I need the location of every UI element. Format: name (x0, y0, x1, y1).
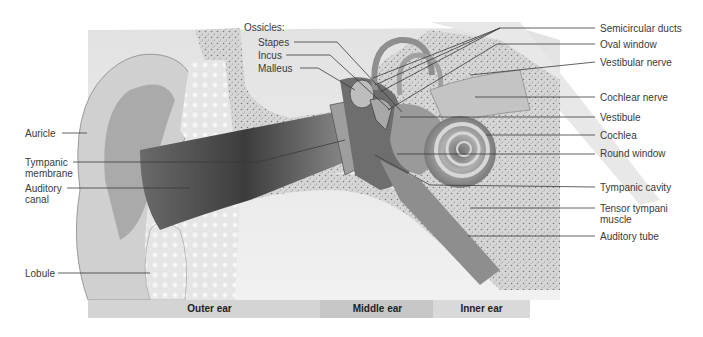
label-auricle: Auricle (25, 128, 56, 139)
ear-anatomy-illustration (0, 0, 703, 337)
lobule-shape (145, 223, 187, 301)
region-label-middle-ear: Middle ear (320, 300, 435, 318)
label-lobule: Lobule (25, 268, 55, 279)
label-cochlea: Cochlea (600, 130, 637, 141)
label-stapes: Stapes (258, 37, 289, 48)
label-oval-window: Oval window (600, 39, 657, 50)
label-ossicles-heading: Ossicles: (244, 22, 285, 33)
label-vestibule: Vestibule (600, 112, 641, 123)
label-round-window: Round window (600, 148, 666, 159)
label-malleus: Malleus (258, 63, 292, 74)
label-tensor-tympani-line1: Tensor tympani (600, 203, 668, 214)
label-tensor-tympani-line2: muscle (600, 214, 632, 225)
label-incus: Incus (258, 50, 282, 61)
label-tympanic-cavity: Tympanic cavity (600, 182, 671, 193)
region-label-outer-ear: Outer ear (88, 300, 331, 318)
label-auditory-canal-line1: Auditory (25, 183, 62, 194)
label-auditory-canal-line2: canal (25, 194, 49, 205)
label-cochlear-nerve: Cochlear nerve (600, 92, 668, 103)
label-auditory-tube: Auditory tube (600, 231, 659, 242)
label-semicircular-ducts: Semicircular ducts (600, 23, 682, 34)
label-tympanic-membrane-line1: Tympanic (25, 157, 68, 168)
region-label-inner-ear: Inner ear (433, 300, 530, 318)
label-tympanic-membrane-line2: membrane (25, 168, 73, 179)
label-vestibular-nerve: Vestibular nerve (600, 57, 672, 68)
